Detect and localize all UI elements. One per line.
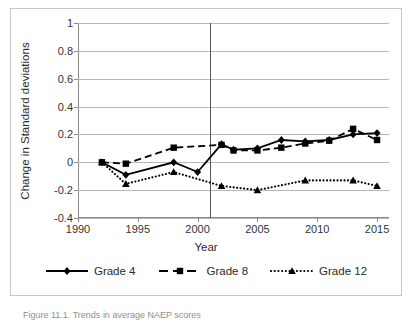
x-tick-mark	[138, 218, 139, 222]
data-point-diamond	[122, 171, 129, 179]
data-point-square	[278, 144, 284, 150]
x-tick-label: 2000	[185, 224, 209, 235]
x-tick-label: 2005	[245, 224, 269, 235]
y-tick-label: 0.6	[58, 73, 73, 84]
x-tick-label: 1990	[66, 224, 90, 235]
data-point-square	[123, 160, 129, 166]
series-grade-12	[98, 158, 381, 193]
data-point-square	[374, 137, 380, 143]
x-tick-label: 2015	[365, 224, 389, 235]
data-point-square	[176, 268, 182, 274]
series-grade-4	[98, 129, 380, 179]
y-tick-label: -0.2	[54, 185, 73, 196]
data-point-triangle	[170, 168, 178, 175]
chart-legend: Grade 4Grade 8Grade 12	[11, 265, 401, 277]
y-axis-title: Change in Standard deviations	[19, 42, 31, 199]
x-tick-mark	[198, 218, 199, 222]
plot-area: 10.80.60.40.20-0.2-0.4 19901995200020052…	[78, 23, 389, 218]
series-lines	[78, 23, 389, 218]
data-point-diamond	[170, 158, 177, 166]
data-point-square	[350, 126, 356, 132]
y-tick-label: 0	[67, 157, 73, 168]
series-line	[102, 129, 377, 164]
data-point-triangle	[349, 177, 357, 184]
data-point-square	[254, 147, 260, 153]
x-tick-label: 1995	[126, 224, 150, 235]
data-point-diamond	[374, 129, 381, 137]
data-point-diamond	[63, 267, 70, 275]
series-line	[102, 133, 377, 175]
x-axis-title: Year	[11, 241, 401, 253]
data-point-square	[170, 144, 176, 150]
x-tick-label: 2010	[305, 224, 329, 235]
legend-item-grade-12[interactable]: Grade 12	[270, 265, 367, 277]
x-tick-mark	[317, 218, 318, 222]
y-tick-label: 1	[67, 18, 73, 29]
x-tick-mark	[78, 218, 79, 222]
y-tick-label: 0.2	[58, 129, 73, 140]
legend-label: Grade 12	[319, 265, 367, 277]
gridline	[78, 218, 389, 219]
y-tick-label: 0.4	[58, 101, 73, 112]
legend-marker-square-icon	[158, 265, 202, 277]
x-tick-mark	[257, 218, 258, 222]
legend-marker-triangle-icon	[270, 265, 314, 277]
series-line	[102, 162, 377, 190]
figure-caption: Figure 11.1. Trends in average NAEP scor…	[23, 310, 413, 322]
data-point-square	[302, 140, 308, 146]
y-tick-label: -0.4	[54, 213, 73, 224]
x-tick-mark	[377, 218, 378, 222]
legend-label: Grade 8	[207, 265, 249, 277]
y-tick-label: 0.8	[58, 45, 73, 56]
legend-item-grade-8[interactable]: Grade 8	[158, 265, 249, 277]
data-point-square	[326, 137, 332, 143]
data-point-diamond	[278, 136, 285, 144]
data-point-square	[230, 147, 236, 153]
series-grade-8	[99, 126, 381, 167]
legend-label: Grade 4	[94, 265, 136, 277]
legend-marker-diamond-icon	[45, 265, 89, 277]
figure-container: Change in Standard deviations 10.80.60.4…	[10, 8, 402, 296]
legend-item-grade-4[interactable]: Grade 4	[45, 265, 136, 277]
data-point-square	[218, 142, 224, 148]
